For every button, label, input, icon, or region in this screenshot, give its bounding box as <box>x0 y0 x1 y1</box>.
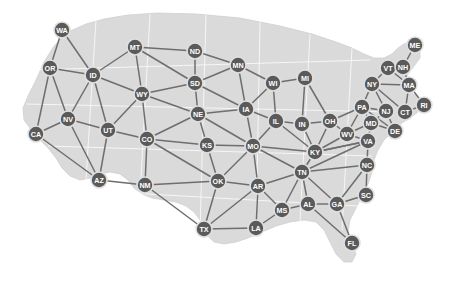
node-label: SC <box>361 191 371 200</box>
node-label: AL <box>303 200 313 209</box>
graph-node-az[interactable]: AZ <box>91 172 107 188</box>
node-label: NH <box>398 63 408 72</box>
graph-node-md[interactable]: MD <box>363 115 379 131</box>
graph-node-me[interactable]: ME <box>407 37 423 53</box>
node-label: OK <box>213 177 225 186</box>
node-label: TX <box>199 225 208 234</box>
node-label: MD <box>365 119 376 128</box>
node-label: CT <box>400 108 410 117</box>
graph-node-nc[interactable]: NC <box>359 157 375 173</box>
graph-node-ri[interactable]: RI <box>416 97 432 113</box>
graph-node-nj[interactable]: NJ <box>378 103 394 119</box>
node-label: AZ <box>94 176 104 185</box>
node-label: GA <box>332 200 343 209</box>
graph-node-al[interactable]: AL <box>300 196 316 212</box>
node-label: AR <box>253 182 264 191</box>
graph-node-ky[interactable]: KY <box>307 144 323 160</box>
node-label: IA <box>242 105 249 114</box>
graph-node-fl[interactable]: FL <box>344 235 360 251</box>
node-label: KY <box>310 148 320 157</box>
graph-node-id[interactable]: ID <box>85 67 101 83</box>
graph-node-ny[interactable]: NY <box>364 76 380 92</box>
node-label: MO <box>247 142 259 151</box>
graph-node-ok[interactable]: OK <box>210 173 226 189</box>
node-label: VT <box>383 64 393 73</box>
graph-node-ar[interactable]: AR <box>250 178 266 194</box>
node-label: OR <box>45 64 57 73</box>
graph-node-sd[interactable]: SD <box>187 75 203 91</box>
graph-node-tx[interactable]: TX <box>196 221 212 237</box>
graph-node-vt[interactable]: VT <box>380 60 396 76</box>
graph-node-wa[interactable]: WA <box>54 22 70 38</box>
graph-node-mi[interactable]: MI <box>297 70 313 86</box>
node-label: MI <box>301 74 309 83</box>
node-label: NE <box>193 110 203 119</box>
graph-node-nh[interactable]: NH <box>395 59 411 75</box>
node-label: MT <box>130 43 141 52</box>
graph-node-mo[interactable]: MO <box>245 138 261 154</box>
node-label: WY <box>136 90 148 99</box>
node-label: WV <box>341 130 353 139</box>
graph-node-wi[interactable]: WI <box>265 75 281 91</box>
graph-node-ks[interactable]: KS <box>199 137 215 153</box>
node-label: OH <box>325 117 336 126</box>
node-label: KS <box>202 141 212 150</box>
graph-node-ma[interactable]: MA <box>401 77 417 93</box>
node-label: WA <box>56 26 68 35</box>
graph-node-nm[interactable]: NM <box>137 177 153 193</box>
node-label: ID <box>89 71 96 80</box>
graph-node-nv[interactable]: NV <box>60 111 76 127</box>
node-label: NV <box>63 115 73 124</box>
node-label: IL <box>273 117 280 126</box>
node-label: MN <box>232 61 243 70</box>
graph-node-ga[interactable]: GA <box>329 196 345 212</box>
node-label: UT <box>103 126 113 135</box>
graph-node-ct[interactable]: CT <box>397 104 413 120</box>
graph-node-pa[interactable]: PA <box>354 99 370 115</box>
node-label: VA <box>363 137 372 146</box>
graph-node-sc[interactable]: SC <box>358 187 374 203</box>
node-label: WI <box>269 79 278 88</box>
graph-node-va[interactable]: VA <box>360 133 376 149</box>
graph-node-ia[interactable]: IA <box>238 101 254 117</box>
graph-node-wy[interactable]: WY <box>134 86 150 102</box>
node-label: MS <box>277 206 288 215</box>
node-label: NC <box>362 161 372 170</box>
network-map-figure: WAMTNDMNORIDSDWIMIMEVTNHWYIANYMANEILINOH… <box>0 0 450 291</box>
graph-node-ca[interactable]: CA <box>28 126 44 142</box>
node-label: NJ <box>381 107 390 116</box>
node-label: CA <box>31 130 41 139</box>
node-label: FL <box>348 239 357 248</box>
graph-node-ms[interactable]: MS <box>274 202 290 218</box>
node-label: LA <box>251 224 261 233</box>
node-label: ND <box>190 47 200 56</box>
network-graph-svg[interactable]: WAMTNDMNORIDSDWIMIMEVTNHWYIANYMANEILINOH… <box>0 0 450 291</box>
graph-node-mt[interactable]: MT <box>127 39 143 55</box>
graph-node-de[interactable]: DE <box>387 123 403 139</box>
node-label: PA <box>357 103 366 112</box>
node-label: NY <box>367 80 377 89</box>
graph-node-nd[interactable]: ND <box>187 43 203 59</box>
node-label: RI <box>420 101 427 110</box>
node-label: CO <box>142 135 153 144</box>
graph-node-wv[interactable]: WV <box>339 126 355 142</box>
graph-node-co[interactable]: CO <box>139 131 155 147</box>
node-label: ME <box>410 41 421 50</box>
graph-node-or[interactable]: OR <box>42 60 58 76</box>
graph-node-tn[interactable]: TN <box>294 164 310 180</box>
graph-node-oh[interactable]: OH <box>322 113 338 129</box>
graph-node-mn[interactable]: MN <box>230 57 246 73</box>
node-label: NM <box>139 181 150 190</box>
node-label: IN <box>298 120 305 129</box>
graph-node-la[interactable]: LA <box>248 220 264 236</box>
node-label: TN <box>297 168 307 177</box>
node-label: SD <box>190 79 200 88</box>
graph-node-ut[interactable]: UT <box>100 122 116 138</box>
node-label: MA <box>403 81 414 90</box>
node-label: DE <box>390 127 400 136</box>
graph-node-in[interactable]: IN <box>294 116 310 132</box>
graph-node-il[interactable]: IL <box>268 113 284 129</box>
graph-node-ne[interactable]: NE <box>190 106 206 122</box>
